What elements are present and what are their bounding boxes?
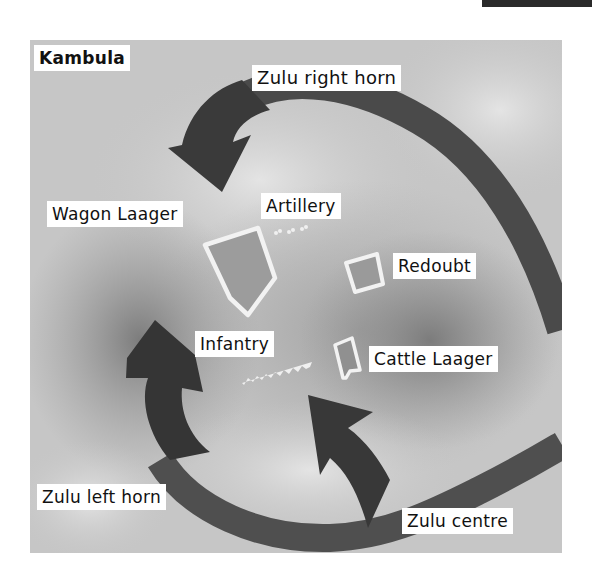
label-redoubt: Redoubt (393, 253, 476, 279)
top-edge-bar (482, 0, 592, 7)
map-canvas (30, 40, 562, 553)
label-cattle-laager: Cattle Laager (369, 346, 498, 372)
label-artillery: Artillery (261, 193, 341, 219)
label-zulu-right-horn: Zulu right horn (252, 65, 401, 91)
label-wagon-laager: Wagon Laager (47, 201, 183, 227)
map-title: Kambula (34, 45, 130, 71)
battle-map-kambula: Kambula Zulu right horn Wagon Laager Art… (30, 40, 562, 553)
label-zulu-centre: Zulu centre (402, 508, 513, 534)
label-infantry: Infantry (195, 331, 274, 357)
label-zulu-left-horn: Zulu left horn (37, 484, 166, 510)
redoubt-icon (346, 254, 383, 292)
